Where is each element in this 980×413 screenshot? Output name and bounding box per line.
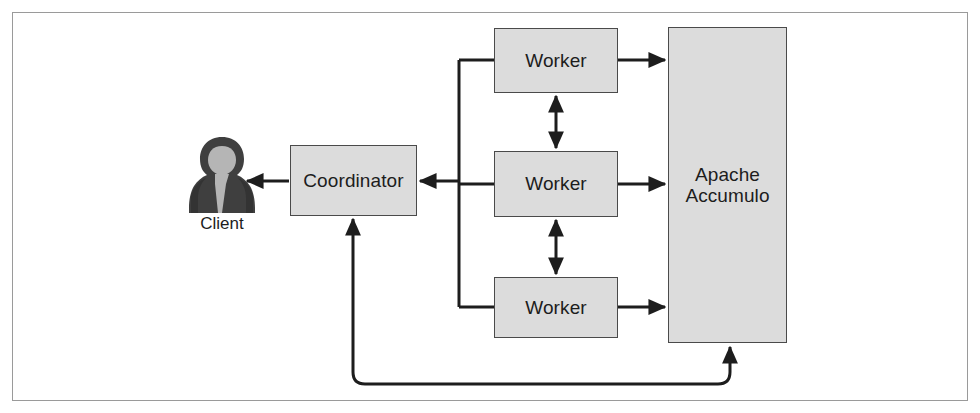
coordinator-label: Coordinator xyxy=(303,170,403,191)
figure-frame xyxy=(12,12,968,401)
datastore-node-apache-accumulo[interactable]: Apache Accumulo xyxy=(668,27,787,343)
client-label: Client xyxy=(186,214,258,234)
worker-node-top[interactable]: Worker xyxy=(494,28,618,93)
worker-top-label: Worker xyxy=(525,50,586,71)
worker-middle-label: Worker xyxy=(525,173,586,194)
datastore-label: Apache Accumulo xyxy=(685,164,769,207)
diagram-canvas: Client Coordinator Worker Worker Worker … xyxy=(0,0,980,413)
worker-node-bottom[interactable]: Worker xyxy=(494,277,618,338)
coordinator-node[interactable]: Coordinator xyxy=(290,145,417,216)
worker-node-middle[interactable]: Worker xyxy=(494,151,618,217)
client-actor: Client xyxy=(186,134,258,240)
user-silhouette-icon xyxy=(186,134,258,214)
worker-bottom-label: Worker xyxy=(525,297,586,318)
